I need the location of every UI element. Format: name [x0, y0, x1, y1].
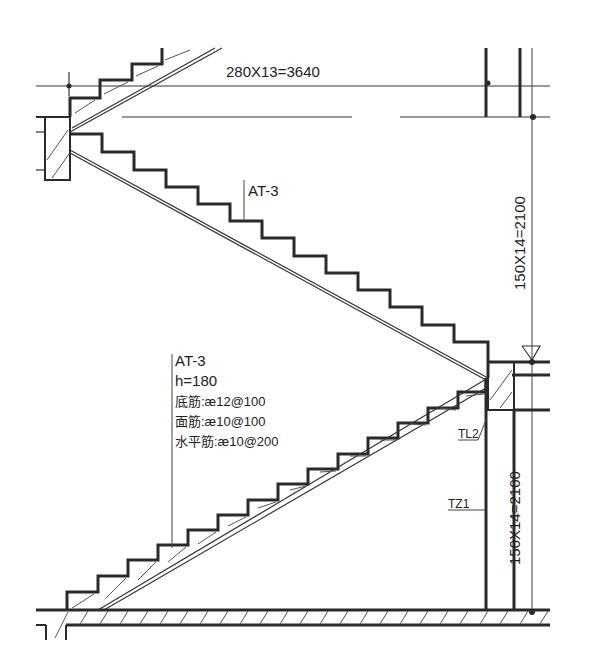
column-label-TZ1: TZ1 — [448, 497, 470, 511]
member-labels: TL2 TZ1 — [448, 420, 486, 511]
staircase-section-drawing: AT-3 AT-3 — [0, 0, 589, 666]
upper-partial-flight — [70, 48, 222, 132]
lower-flight-label: AT-3 — [175, 352, 206, 369]
upper-flight-label: AT-3 — [248, 182, 279, 199]
lower-flight-notes: AT-3 h=180 底筋:æ12@100 面筋:æ10@100 水平筋:æ10… — [172, 352, 279, 548]
slab-thickness: h=180 — [175, 372, 217, 389]
middle-flight-label: AT-3 — [244, 180, 279, 222]
ground-slab — [36, 609, 550, 640]
slab-hatch — [80, 611, 548, 624]
middle-flight-AT-3 — [70, 134, 488, 380]
beam-label-TL2: TL2 — [458, 427, 479, 441]
lower-flight-AT-3 — [67, 378, 488, 610]
top-horizontal-dimension: 280X13=3640 — [226, 63, 320, 80]
bottom-rebar-note: 底筋:æ12@100 — [175, 394, 266, 409]
top-rebar-note: 面筋:æ10@100 — [175, 414, 266, 429]
upper-landing-beam — [36, 117, 70, 180]
lower-vertical-dimension: 150X14=2100 — [506, 471, 523, 565]
upper-vertical-dimension: 150X14=2100 — [511, 196, 528, 290]
distribution-rebar-note: 水平筋:æ10@200 — [175, 434, 279, 449]
